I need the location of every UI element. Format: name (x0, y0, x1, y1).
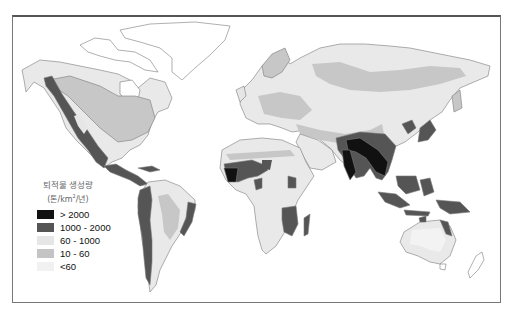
legend-swatch-10-60 (37, 249, 54, 258)
legend-item: 10 - 60 (30, 247, 140, 260)
greenland (120, 22, 230, 80)
legend-swatch-60-1000 (37, 236, 54, 245)
legend-item: 60 - 1000 (30, 234, 140, 247)
legend-swatch-lt60 (37, 262, 54, 271)
legend-item: <60 (30, 260, 140, 273)
legend-item: > 2000 (30, 208, 140, 221)
legend: 퇴적물 생성량 (톤/km2/년) > 2000 1000 - 2000 60 … (30, 180, 140, 273)
legend-title: 퇴적물 생성량 (30, 180, 106, 191)
new-zealand (468, 252, 484, 278)
legend-unit: (톤/km2/년) (30, 191, 106, 205)
legend-swatch-1000-2000 (37, 223, 54, 232)
legend-item: 1000 - 2000 (30, 221, 140, 234)
legend-swatch-gt2000 (37, 210, 54, 219)
